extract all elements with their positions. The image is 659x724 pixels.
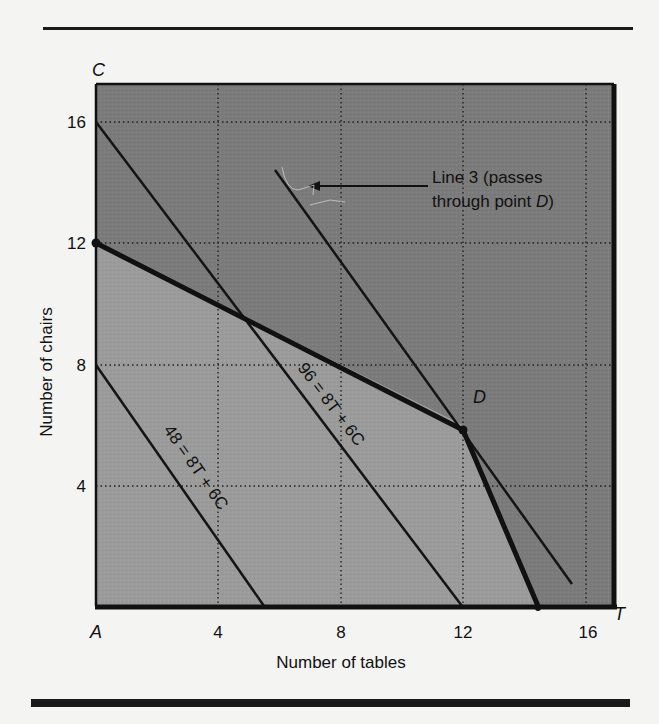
x-axis-title: Number of tables — [276, 653, 405, 672]
x-tick-4: 4 — [213, 623, 222, 642]
c-axis-letter: C — [92, 60, 106, 80]
chart: Line 3 (passes through point D) 48 = 8T … — [0, 0, 659, 724]
y-axis-title: Number of chairs — [37, 307, 56, 436]
y-tick-12: 12 — [67, 234, 86, 253]
point-d — [459, 426, 468, 435]
annotation-line1: Line 3 (passes — [432, 168, 543, 187]
point-c12 — [92, 239, 101, 248]
annotation-line2: through point D) — [432, 192, 554, 211]
y-tick-4: 4 — [77, 477, 86, 496]
t-axis-letter: T — [614, 604, 627, 624]
y-tick-8: 8 — [77, 356, 86, 375]
y-tick-16: 16 — [67, 113, 86, 132]
x-tick-16: 16 — [579, 623, 598, 642]
x-tick-8: 8 — [336, 623, 345, 642]
point-d-label: D — [473, 387, 486, 407]
a-origin-letter: A — [89, 622, 102, 642]
x-tick-12: 12 — [454, 623, 473, 642]
